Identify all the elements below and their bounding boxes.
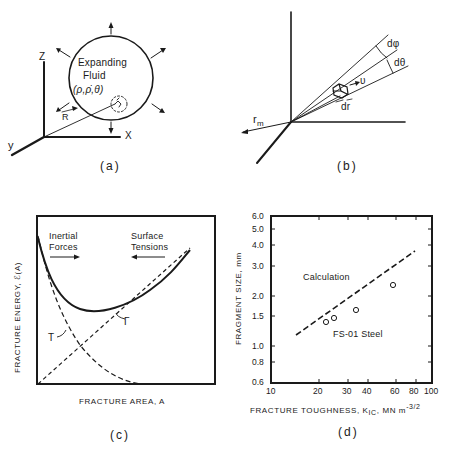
x-tick-label: 60 (390, 386, 399, 396)
y-tick-label: 0.8 (252, 357, 264, 367)
data-point (390, 282, 395, 287)
x-tick-label: 30 (342, 386, 351, 396)
xlabel-units: , MN m (377, 406, 406, 415)
calculation-line (296, 251, 415, 335)
x-tick-label: 40 (362, 386, 371, 396)
steel-label: FS-01 Steel (333, 329, 383, 339)
y-tick-label: 6.0 (252, 211, 264, 221)
y-tick-label: 4.0 (252, 240, 264, 250)
y-tick-label: 2.0 (252, 291, 264, 301)
plot-frame-d (271, 216, 432, 383)
panel-d-ylabel: FRAGMENT SIZE, mm (234, 252, 243, 345)
x-tick-label: 100 (424, 386, 438, 396)
xlabel-exp: -3/2 (406, 403, 420, 410)
xlabel-main: FRACTURE TOUGHNESS, K (250, 406, 369, 415)
x-tick-label: 20 (313, 386, 322, 396)
y-tick-label: 1.5 (252, 311, 264, 321)
x-ticks (319, 216, 416, 383)
y-tick-label: 3.0 (252, 261, 264, 271)
panel-d-xlabel: FRACTURE TOUGHNESS, KIC, MN m-3/2 (250, 403, 421, 416)
data-point (353, 307, 358, 312)
y-tick-label: 0.6 (252, 377, 264, 387)
x-tick-label: 10 (266, 386, 275, 396)
data-point (331, 315, 336, 320)
steel-data-points (323, 282, 395, 324)
y-tick-label: 5.0 (252, 224, 264, 234)
panel-d-chart (0, 0, 452, 453)
y-tick-label: 1.0 (252, 341, 264, 351)
data-point (323, 319, 328, 324)
panel-d-caption: (d) (338, 425, 359, 439)
calculation-label: Calculation (303, 272, 350, 282)
xlabel-sub: IC (369, 409, 377, 416)
x-tick-label: 80 (409, 386, 418, 396)
